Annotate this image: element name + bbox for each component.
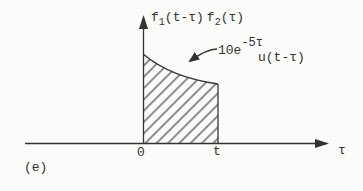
annotation-expression: 10e-5τ [218, 44, 263, 58]
y-label-sub2: 2 [215, 17, 221, 28]
y-axis-label: f1(t-τ)f2(τ) [151, 11, 244, 26]
annotation-coefficient: 10e [218, 43, 241, 58]
y-label-arg2: (τ) [221, 10, 244, 25]
x-axis-label: τ [338, 144, 346, 158]
y-label-arg1: (t-τ) [165, 10, 204, 25]
t-tick-label: t [213, 145, 221, 159]
hatched-region [143, 54, 218, 144]
figure-caption: (e) [24, 161, 47, 175]
origin-tick-label: 0 [137, 146, 145, 160]
y-label-sub1: 1 [159, 17, 165, 28]
y-label-f2: f [207, 10, 215, 25]
annotation-step-function: u(t-τ) [258, 51, 305, 65]
plot-canvas [0, 0, 363, 191]
annotation-arrow [190, 49, 217, 61]
annotation-exponent: -5τ [241, 36, 263, 50]
y-label-f1: f [151, 10, 159, 25]
convolution-product-figure: f1(t-τ)f2(τ) 10e-5τ u(t-τ) 0 t τ (e) [0, 0, 363, 191]
